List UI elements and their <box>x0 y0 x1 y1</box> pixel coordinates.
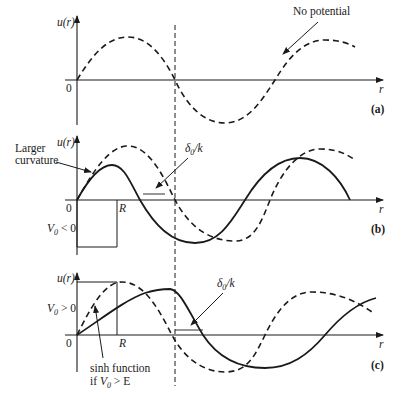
sinh-function-label-line1: sinh function <box>90 362 151 374</box>
panel-b: u(r) r 0 R V0 < 0 Larger curvature δ0/k … <box>15 136 385 255</box>
origin-label-b: 0 <box>66 202 72 214</box>
potential-label-b: V0 < 0 <box>47 222 76 237</box>
panel-tag-b: (b) <box>371 223 385 236</box>
x-axis-label-a: r <box>379 83 384 95</box>
sinh-function-label-line2: if V0 > E <box>90 375 130 390</box>
wave-with-potential-solid-c <box>77 289 376 368</box>
potential-barrier-c <box>77 282 117 335</box>
larger-curvature-arrow <box>56 162 91 172</box>
potential-label-c: V0 > 0 <box>47 302 76 317</box>
x-axis-label-c: r <box>379 338 384 350</box>
well-edge-label-b: R <box>118 202 126 214</box>
no-potential-label: No potential <box>293 5 350 18</box>
free-wave-dashed-c <box>77 282 372 372</box>
panel-c: u(r) r 0 R V0 > 0 sinh function if V0 > … <box>47 272 384 390</box>
scattering-phase-shift-diagram: u(r) r 0 No potential (a) u(r) r 0 R V0 … <box>0 0 395 398</box>
phase-shift-label-c: δ0/k <box>217 277 236 292</box>
larger-curvature-label-line2: curvature <box>15 154 58 166</box>
panel-a: u(r) r 0 No potential (a) <box>57 5 385 125</box>
sinh-function-arrow <box>95 306 103 358</box>
x-axis-label-b: r <box>379 203 384 215</box>
y-axis-label-b: u(r) <box>57 136 75 149</box>
potential-well-b <box>77 200 117 247</box>
y-axis-label-a: u(r) <box>57 16 75 29</box>
panel-tag-a: (a) <box>371 103 385 116</box>
panel-tag-c: (c) <box>371 359 384 372</box>
origin-label-c: 0 <box>66 337 72 349</box>
well-edge-label-c: R <box>118 337 126 349</box>
phase-shift-arrow-c <box>191 293 223 325</box>
y-axis-label-c: u(r) <box>57 272 75 285</box>
phase-shift-label-b: δ0/k <box>185 142 204 157</box>
origin-label-a: 0 <box>66 82 72 94</box>
